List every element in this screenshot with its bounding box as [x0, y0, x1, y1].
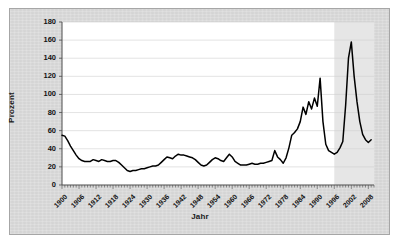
y-tick-label: 160 — [30, 35, 56, 44]
y-tick-label: 180 — [30, 17, 56, 26]
y-tick-label: 100 — [30, 89, 56, 98]
y-tick-label: 140 — [30, 53, 56, 62]
y-tick-label: 80 — [30, 108, 56, 117]
chart-figure: Prozent Jahr 180160140120100806040200 19… — [0, 0, 400, 249]
y-tick-label: 40 — [30, 144, 56, 153]
forecast-shaded-band — [334, 22, 374, 185]
y-tick-label: 0 — [30, 180, 56, 189]
y-tick-label: 120 — [30, 71, 56, 80]
y-tick-label: 60 — [30, 126, 56, 135]
y-tick-label: 20 — [30, 162, 56, 171]
plot-background — [62, 22, 374, 185]
